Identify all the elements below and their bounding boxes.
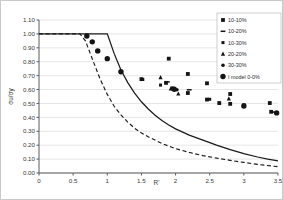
marker-I model 0-0%: [84, 33, 89, 38]
y-tick-label: 0.10: [23, 155, 36, 162]
chart-page: 0.000.100.200.300.400.500.600.700.800.90…: [0, 0, 283, 200]
y-axis-title: σu/σy: [7, 87, 15, 104]
y-tick-label: 1.10: [23, 16, 36, 23]
y-tick-label: 1.00: [23, 30, 36, 37]
y-tick-label: 0.50: [23, 100, 36, 107]
x-tick-label: 3.5: [274, 177, 283, 184]
y-tick-label: 0.00: [23, 169, 36, 176]
marker-I model 0-0%: [90, 39, 95, 44]
marker-I model 0-0%: [105, 56, 110, 61]
y-tick-label: 0.20: [23, 141, 36, 148]
marker-10-10%: [186, 91, 190, 95]
x-tick-label: 0.5: [69, 177, 78, 184]
marker-20-20%: [176, 91, 180, 95]
legend-marker-30-30%: [221, 63, 225, 67]
marker-10-10%: [228, 92, 232, 96]
x-axis-title: R': [154, 179, 160, 186]
marker-20-20%: [227, 96, 231, 100]
y-axis-tick-labels: 0.000.100.200.300.400.500.600.700.800.90…: [23, 16, 36, 176]
legend-marker-10-10%: [221, 18, 225, 22]
x-tick-label: 0: [37, 177, 41, 184]
legend-marker-I model 0-0%: [220, 74, 225, 79]
y-tick-label: 0.70: [23, 72, 36, 79]
y-tick-label: 0.90: [23, 44, 36, 51]
legend-marker-10-20%: [221, 31, 226, 33]
marker-10-20%: [165, 81, 170, 83]
legend-label: 30-30%: [228, 62, 247, 68]
x-axis-tick-labels: 00.511.522.533.5: [37, 177, 283, 184]
marker-I model 0-0%: [118, 69, 123, 74]
marker-I model 0-0%: [241, 103, 246, 108]
marker-10-30%: [159, 84, 162, 87]
legend-marker-10-30%: [222, 41, 225, 44]
y-tick-label: 0.40: [23, 114, 36, 121]
legend-label: 10-30%: [228, 40, 247, 46]
legend-label: 10-20%: [228, 28, 247, 34]
legend-box: [217, 13, 281, 83]
legend-label: 10-10%: [228, 17, 247, 23]
x-tick-label: 1.5: [137, 177, 146, 184]
y-tick-label: 0.80: [23, 58, 36, 65]
chart-legend: 10-10%10-20%10-30%20-20%30-30%I model 0-…: [217, 13, 281, 83]
marker-10-10%: [228, 102, 232, 106]
marker-10-10%: [205, 81, 209, 85]
marker-I model 0-0%: [274, 110, 279, 115]
x-tick-label: 2.5: [205, 177, 214, 184]
marker-10-10%: [186, 72, 190, 76]
legend-label: I model 0-0%: [228, 74, 260, 80]
marker-10-10%: [217, 101, 221, 105]
marker-10-30%: [141, 78, 144, 81]
marker-I model 0-0%: [95, 48, 100, 53]
legend-label: 20-20%: [228, 51, 247, 57]
y-tick-label: 0.60: [23, 86, 36, 93]
scatter-chart: 0.000.100.200.300.400.500.600.700.800.90…: [1, 1, 283, 200]
x-tick-label: 3: [242, 177, 246, 184]
x-tick-label: 1: [106, 177, 110, 184]
x-tick-label: 2: [174, 177, 178, 184]
chart-container: 0.000.100.200.300.400.500.600.700.800.90…: [1, 1, 283, 200]
y-tick-label: 0.30: [23, 127, 36, 134]
marker-10-10%: [167, 57, 171, 61]
marker-10-20%: [187, 89, 192, 91]
marker-10-10%: [268, 101, 272, 105]
marker-I model 0-0%: [172, 87, 177, 92]
marker-10-30%: [208, 98, 211, 101]
